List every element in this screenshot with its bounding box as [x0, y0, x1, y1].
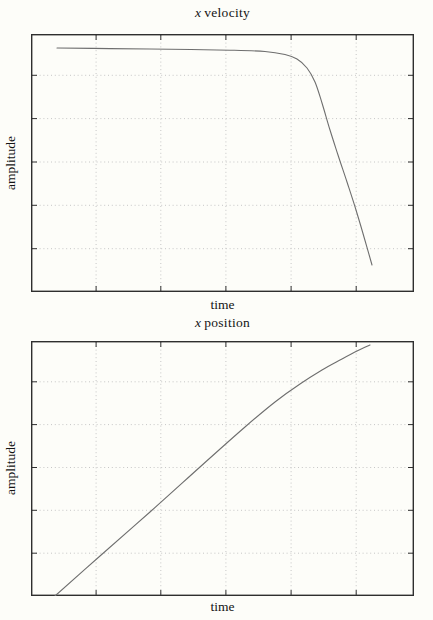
position-plot-area — [31, 341, 414, 596]
velocity-chart-title: xvelocity — [31, 5, 414, 21]
velocity-plot-area — [31, 34, 414, 292]
position-y-axis-label: amplitude — [3, 408, 19, 528]
title-text: velocity — [204, 5, 250, 20]
title-variable-x: x — [195, 5, 201, 20]
velocity-x-axis-label: time — [31, 297, 414, 313]
position-x-axis-label: time — [31, 599, 414, 615]
title-text: position — [204, 315, 250, 330]
velocity-y-axis-label: amplitude — [3, 103, 19, 223]
title-variable-x: x — [195, 315, 201, 330]
figure: xvelocity amplitude time xposition ampli… — [0, 0, 433, 620]
position-chart-title: xposition — [31, 315, 414, 331]
